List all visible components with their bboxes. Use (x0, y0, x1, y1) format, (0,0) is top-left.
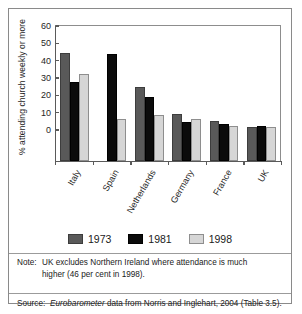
x-axis-label-text: France (211, 168, 234, 197)
x-axis-label-germany: Germany (168, 166, 206, 224)
bar-spain-1981 (107, 54, 117, 161)
legend-swatch-1973 (68, 234, 83, 244)
bar-group-spain (93, 26, 130, 161)
x-tick-3 (168, 161, 169, 165)
y-tick-60: 60 (41, 21, 56, 31)
bar-netherlands-1973 (135, 87, 145, 161)
y-tick-10: 10 (41, 108, 56, 118)
source-label: Source: (17, 298, 50, 309)
bar-france-1981 (219, 124, 229, 161)
bar-netherlands-1998 (154, 115, 164, 161)
legend-swatch-1998 (189, 234, 204, 244)
bar-groups (56, 26, 280, 161)
bar-group-netherlands (131, 26, 168, 161)
x-tick-0 (55, 161, 56, 165)
bar-france-1973 (210, 121, 220, 161)
x-axis-label-uk: UK (243, 166, 281, 224)
x-tick-6 (281, 161, 282, 165)
figure-frame: % attending church weekly or more 605040… (8, 8, 292, 304)
bar-germany-1998 (191, 119, 201, 161)
bar-france-1998 (229, 126, 239, 161)
y-tick-40: 40 (41, 56, 56, 66)
legend-swatch-1981 (128, 234, 143, 244)
source-remainder: data from Norris and Inglehart, 2004 (Ta… (105, 299, 282, 308)
x-axis-label-text: Italy (66, 168, 83, 187)
plot-area: 6050403020100 (55, 25, 281, 161)
bar-uk-1981 (257, 126, 267, 161)
bar-italy-1973 (60, 53, 70, 161)
y-tick-30: 30 (41, 73, 56, 83)
x-tick-4 (206, 161, 207, 165)
legend-item-1973: 1973 (68, 233, 111, 245)
x-axis-label-text: Spain (100, 168, 120, 193)
legend-label-1998: 1998 (209, 233, 232, 245)
legend-label-1973: 1973 (88, 233, 111, 245)
note-text: Note:UK excludes Northern Ireland where … (17, 257, 285, 280)
bar-group-uk (243, 26, 280, 161)
x-axis-label-text: Germany (168, 168, 195, 205)
y-tick-0: 0 (46, 125, 56, 135)
chart-legend: 197319811998 (9, 231, 291, 247)
x-axis-label-text: UK (256, 168, 271, 184)
x-axis-label-italy: Italy (55, 166, 93, 224)
bar-group-france (205, 26, 242, 161)
x-axis-label-netherlands: Netherlands (130, 166, 168, 224)
y-tick-50: 50 (41, 38, 56, 48)
bar-germany-1981 (182, 122, 192, 161)
divider-above-source (9, 293, 291, 294)
source-publication: Eurobarometer (50, 299, 105, 308)
bar-germany-1973 (172, 114, 182, 161)
y-axis-label: % attending church weekly or more (13, 25, 31, 155)
bar-spain-1998 (117, 119, 127, 161)
bar-uk-1973 (247, 127, 257, 161)
legend-item-1981: 1981 (128, 233, 171, 245)
y-tick-20: 20 (41, 90, 56, 100)
legend-item-1998: 1998 (189, 233, 232, 245)
legend-label-1981: 1981 (148, 233, 171, 245)
bar-italy-1998 (79, 74, 89, 161)
note-line-2: higher (46 per cent in 1998). (42, 269, 285, 281)
note-line-1: UK excludes Northern Ireland where atten… (42, 258, 247, 267)
bar-uk-1998 (266, 127, 276, 161)
x-axis-labels: ItalySpainNetherlandsGermanyFranceUK (55, 166, 281, 224)
divider-above-note (9, 253, 291, 254)
x-tick-1 (93, 161, 94, 165)
bar-group-germany (168, 26, 205, 161)
x-tick-5 (243, 161, 244, 165)
bar-group-italy (56, 26, 93, 161)
bar-italy-1981 (70, 82, 80, 161)
bar-chart: % attending church weekly or more 605040… (9, 11, 291, 227)
x-tick-2 (130, 161, 131, 165)
y-axis-label-text: % attending church weekly or more (17, 25, 27, 155)
x-axis-label-text: Netherlands (125, 168, 158, 215)
x-axis-label-france: France (206, 166, 244, 224)
source-text: Source:Eurobarometer data from Norris an… (17, 298, 285, 309)
x-axis-label-spain: Spain (93, 166, 131, 224)
note-label: Note: (17, 257, 42, 269)
bar-netherlands-1981 (145, 97, 155, 161)
